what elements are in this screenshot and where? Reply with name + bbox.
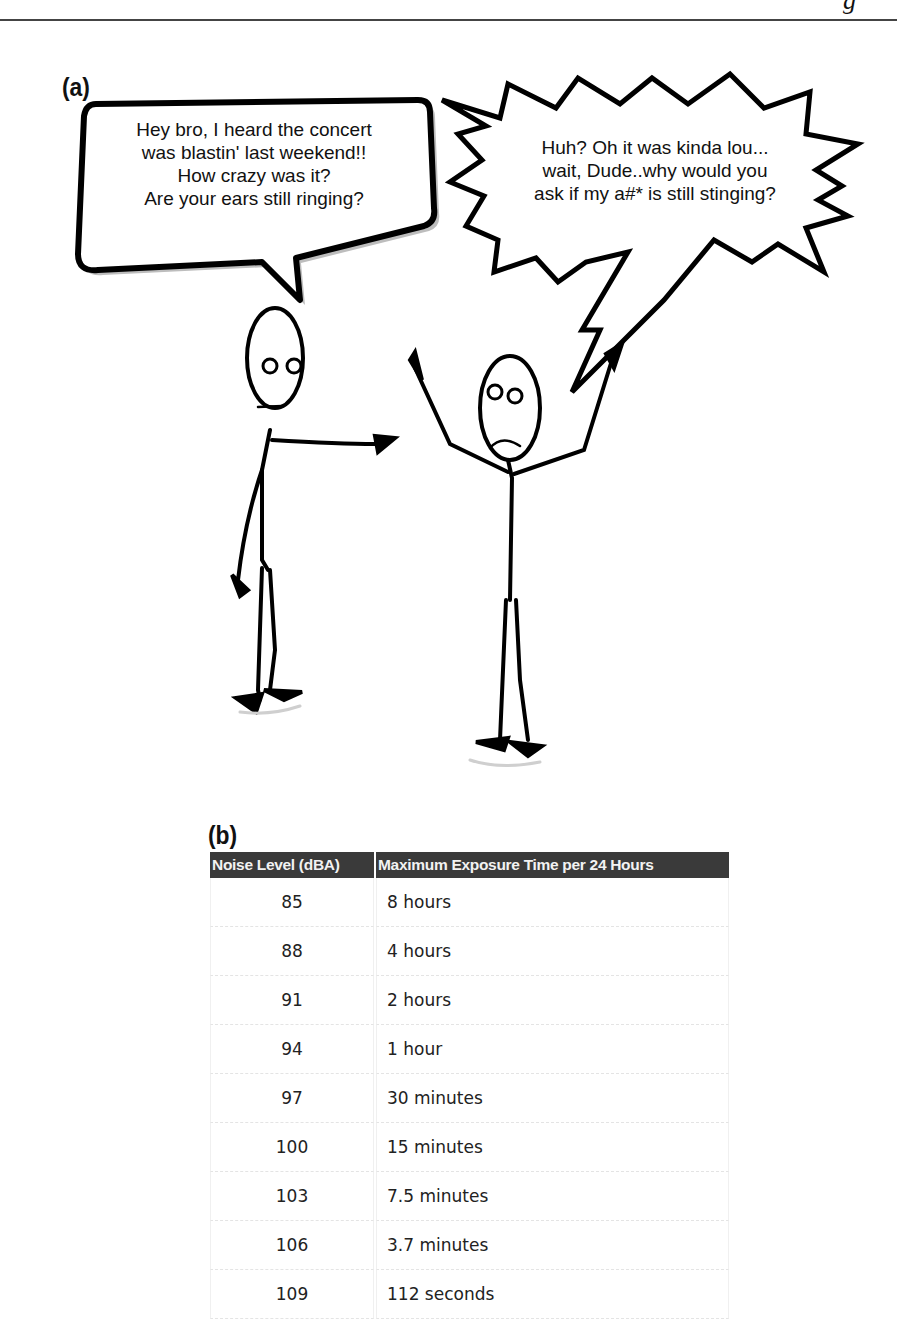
- exposure-time-cell: 15 minutes: [376, 1123, 729, 1172]
- speech-line: was blastin' last weekend!!: [96, 141, 412, 164]
- speech-bubble-left-text: Hey bro, I heard the concert was blastin…: [96, 118, 412, 210]
- speech-bubble-right: [442, 74, 858, 392]
- speech-line: wait, Dude..why would you: [490, 159, 820, 182]
- speech-line: How crazy was it?: [96, 164, 412, 187]
- table-row: 884 hours: [210, 927, 729, 976]
- column-header-noise-level: Noise Level (dBA): [210, 852, 374, 878]
- exposure-time-cell: 7.5 minutes: [376, 1172, 729, 1221]
- exposure-time-cell: 3.7 minutes: [376, 1221, 729, 1270]
- table-row: 912 hours: [210, 976, 729, 1025]
- table-row: 109112 seconds: [210, 1270, 729, 1319]
- noise-exposure-table: Noise Level (dBA) Maximum Exposure Time …: [208, 852, 731, 1319]
- exposure-time-cell: 2 hours: [376, 976, 729, 1025]
- noise-level-cell: 88: [210, 927, 374, 976]
- noise-level-cell: 91: [210, 976, 374, 1025]
- column-header-max-exposure: Maximum Exposure Time per 24 Hours: [376, 852, 729, 878]
- noise-level-cell: 109: [210, 1270, 374, 1319]
- exposure-time-cell: 1 hour: [376, 1025, 729, 1074]
- table-header-row: Noise Level (dBA) Maximum Exposure Time …: [210, 852, 729, 878]
- table-row: 10015 minutes: [210, 1123, 729, 1172]
- speech-line: ask if my a#* is still stinging?: [490, 182, 820, 205]
- noise-level-cell: 97: [210, 1074, 374, 1123]
- speech-bubble-right-text: Huh? Oh it was kinda lou... wait, Dude..…: [490, 136, 820, 205]
- noise-level-cell: 106: [210, 1221, 374, 1270]
- noise-level-cell: 85: [210, 878, 374, 927]
- table-row: 9730 minutes: [210, 1074, 729, 1123]
- noise-level-cell: 103: [210, 1172, 374, 1221]
- speech-line: Huh? Oh it was kinda lou...: [490, 136, 820, 159]
- speech-line: Hey bro, I heard the concert: [96, 118, 412, 141]
- exposure-time-cell: 4 hours: [376, 927, 729, 976]
- table-row: 858 hours: [210, 878, 729, 927]
- noise-level-cell: 100: [210, 1123, 374, 1172]
- speech-line: Are your ears still ringing?: [96, 187, 412, 210]
- exposure-time-cell: 30 minutes: [376, 1074, 729, 1123]
- noise-level-cell: 94: [210, 1025, 374, 1074]
- panel-b-label: (b): [208, 820, 237, 851]
- table-row: 1037.5 minutes: [210, 1172, 729, 1221]
- table-row: 941 hour: [210, 1025, 729, 1074]
- table-row: 1063.7 minutes: [210, 1221, 729, 1270]
- right-stick-figure: [410, 344, 622, 766]
- exposure-time-cell: 8 hours: [376, 878, 729, 927]
- left-stick-figure: [232, 308, 395, 713]
- exposure-time-cell: 112 seconds: [376, 1270, 729, 1319]
